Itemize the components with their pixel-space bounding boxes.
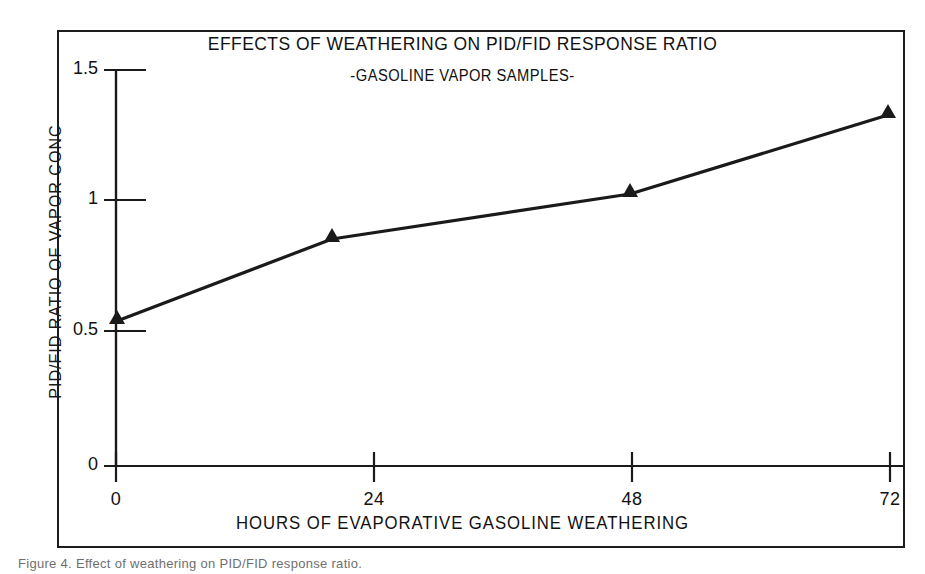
y-axis-label: PID/FID RATIO OF VAPOR CONC [46, 125, 66, 400]
y-axis-label-container: PID/FID RATIO OF VAPOR CONC [46, 42, 74, 482]
y-tick-label-0-5: 0.5 [28, 319, 98, 340]
y-tick-label-1-5: 1.5 [28, 58, 98, 79]
chart-title: EFFECTS OF WEATHERING ON PID/FID RESPONS… [37, 33, 888, 55]
y-tick-label-1-0: 1 [28, 188, 98, 209]
figure-container: EFFECTS OF WEATHERING ON PID/FID RESPONS… [0, 0, 925, 574]
chart-subtitle: -GASOLINE VAPOR SAMPLES- [37, 67, 888, 85]
figure-caption: Figure 4. Effect of weathering on PID/FI… [18, 556, 362, 571]
x-tick-label-24: 24 [344, 489, 404, 510]
chart-frame-border [57, 30, 905, 548]
x-tick-label-72: 72 [860, 489, 920, 510]
x-tick-label-0: 0 [86, 489, 146, 510]
x-tick-label-48: 48 [602, 489, 662, 510]
x-axis-label: HOURS OF EVAPORATIVE GASOLINE WEATHERING [32, 513, 892, 534]
y-tick-label-0-0: 0 [28, 454, 98, 475]
